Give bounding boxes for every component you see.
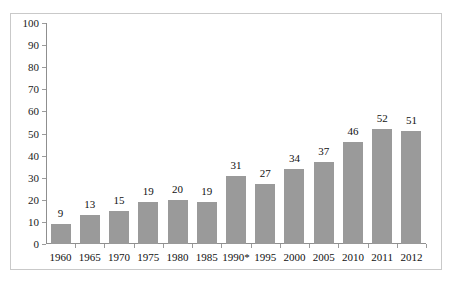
x-axis-tick-label: 1975 [137, 252, 159, 263]
x-axis-tick-mark [221, 244, 222, 248]
x-axis-tick-label: 1960 [50, 252, 72, 263]
x-axis-tick-label: 1980 [167, 252, 189, 263]
y-axis-tick-label: 10 [28, 216, 39, 227]
chart-frame: 0102030405060708090100 91960131965151970… [10, 13, 442, 270]
bar[interactable] [255, 184, 275, 244]
bar-group[interactable]: 131965 [75, 23, 104, 244]
x-axis-tick-mark [338, 244, 339, 248]
bar[interactable] [284, 169, 304, 244]
y-axis-tick-mark [42, 244, 46, 245]
x-axis-tick-mark [368, 244, 369, 248]
y-axis-tick-label: 90 [28, 40, 39, 51]
x-axis-tick-mark [309, 244, 310, 248]
bar[interactable] [343, 142, 363, 244]
bar-group[interactable]: 512012 [397, 23, 426, 244]
bar-value-label: 31 [230, 160, 241, 171]
y-axis-tick-label: 50 [28, 128, 39, 139]
bar[interactable] [109, 211, 129, 244]
bar-value-label: 37 [318, 146, 329, 157]
y-axis-tick-label: 40 [28, 150, 39, 161]
bar-group[interactable]: 191985 [192, 23, 221, 244]
bar[interactable] [51, 224, 71, 244]
y-axis-tick-label: 30 [28, 172, 39, 183]
x-axis-tick-label: 2012 [400, 252, 422, 263]
bar[interactable] [226, 176, 246, 245]
bar[interactable] [372, 129, 392, 244]
bar-group[interactable]: 271995 [251, 23, 280, 244]
bar-value-label: 27 [260, 168, 271, 179]
x-axis-tick-mark [104, 244, 105, 248]
bar-value-label: 9 [58, 208, 64, 219]
x-axis-tick-mark [426, 244, 427, 248]
x-axis-tick-label: 2000 [283, 252, 305, 263]
bar-group[interactable]: 91960 [46, 23, 75, 244]
bar-group[interactable]: 191975 [134, 23, 163, 244]
y-axis-tick-label: 80 [28, 62, 39, 73]
x-axis-tick-mark [163, 244, 164, 248]
x-axis-tick-label: 2010 [342, 252, 364, 263]
bar-group[interactable]: 342000 [280, 23, 309, 244]
x-axis-tick-label: 2011 [371, 252, 393, 263]
x-axis-tick-label: 1990* [222, 252, 250, 263]
bar-group[interactable]: 151970 [104, 23, 133, 244]
bar-group[interactable]: 311990* [221, 23, 250, 244]
x-axis-tick-mark [192, 244, 193, 248]
x-axis-tick-mark [134, 244, 135, 248]
bar[interactable] [314, 162, 334, 244]
x-axis-tick-mark [251, 244, 252, 248]
bar[interactable] [80, 215, 100, 244]
y-axis-tick-label: 0 [34, 239, 40, 250]
x-axis-tick-label: 1965 [79, 252, 101, 263]
y-axis-tick-label: 60 [28, 106, 39, 117]
bar[interactable] [197, 202, 217, 244]
x-axis-tick-mark [280, 244, 281, 248]
x-axis-tick-label: 1970 [108, 252, 130, 263]
bar-group[interactable]: 462010 [338, 23, 367, 244]
bar[interactable] [168, 200, 188, 244]
y-axis-tick-label: 20 [28, 194, 39, 205]
bar-value-label: 20 [172, 184, 183, 195]
x-axis-tick-mark [397, 244, 398, 248]
x-axis-tick-label: 1985 [196, 252, 218, 263]
y-axis-tick-label: 100 [23, 18, 40, 29]
x-axis-tick-label: 1995 [254, 252, 276, 263]
bar-group[interactable]: 201980 [163, 23, 192, 244]
bar-value-label: 46 [347, 126, 358, 137]
plot-area: 0102030405060708090100 91960131965151970… [46, 23, 426, 244]
bar[interactable] [138, 202, 158, 244]
bar-group[interactable]: 372005 [309, 23, 338, 244]
x-axis-tick-mark [75, 244, 76, 248]
bar-value-label: 15 [114, 195, 125, 206]
bar-value-label: 19 [201, 186, 212, 197]
x-axis-tick-label: 2005 [313, 252, 335, 263]
bar-value-label: 52 [377, 113, 388, 124]
bar-value-label: 51 [406, 115, 417, 126]
bar-value-label: 34 [289, 153, 300, 164]
bar-value-label: 19 [143, 186, 154, 197]
bar[interactable] [401, 131, 421, 244]
bar-value-label: 13 [84, 199, 95, 210]
bar-group[interactable]: 522011 [368, 23, 397, 244]
y-axis-tick-label: 70 [28, 84, 39, 95]
